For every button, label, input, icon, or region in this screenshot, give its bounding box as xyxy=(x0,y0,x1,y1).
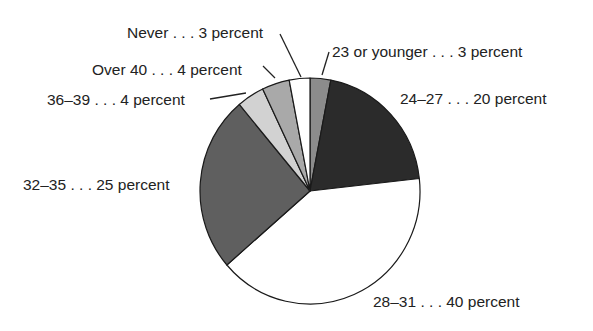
label-28-31: 28–31 . . . 40 percent xyxy=(373,293,520,310)
label-24-27: 24–27 . . . 20 percent xyxy=(400,90,547,107)
leader-line-never xyxy=(280,34,301,77)
leader-line-36-39 xyxy=(210,93,246,99)
pie-chart: Never . . . 3 percent 23 or younger . . … xyxy=(0,0,593,331)
label-over-40: Over 40 . . . 4 percent xyxy=(92,61,243,78)
label-32-35: 32–35 . . . 25 percent xyxy=(23,176,170,193)
leader-line-over-40 xyxy=(263,66,275,78)
leader-line-23-or-younger xyxy=(322,52,329,75)
pie-slices xyxy=(200,78,420,304)
label-23-or-younger: 23 or younger . . . 3 percent xyxy=(332,43,523,60)
label-never: Never . . . 3 percent xyxy=(127,24,264,41)
label-36-39: 36–39 . . . 4 percent xyxy=(47,91,186,108)
